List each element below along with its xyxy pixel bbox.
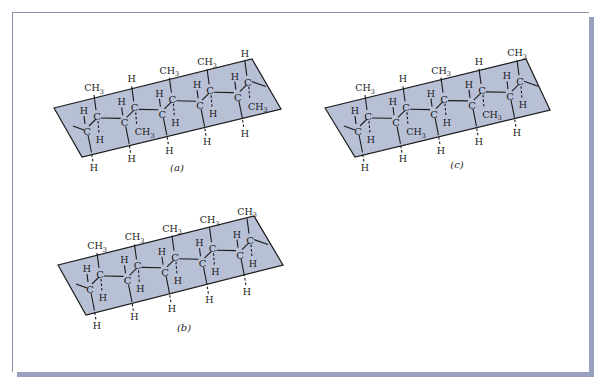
hydrogen-atom: H (465, 79, 473, 90)
carbon-atom: C (246, 235, 254, 246)
carbon-atom: C (440, 94, 448, 105)
hydrogen-atom: H (99, 292, 107, 303)
carbon-atom: C (196, 100, 204, 111)
carbon-atom: C (131, 102, 139, 113)
carbon-atom: C (430, 109, 438, 120)
carbon-atom: C (161, 267, 169, 278)
hydrogen-atom: H (120, 254, 128, 265)
panel-b-isotactic: HHCCH3HCHHCCH3HCHHCCH3HCHHCCH3HCHHCCH3HC… (58, 206, 283, 333)
hydrogen-atom: H (243, 286, 251, 297)
hydrogen-atom: H (389, 96, 397, 107)
hydrogen-atom: H (231, 71, 239, 82)
carbon-atom: C (206, 85, 214, 96)
hydrogen-atom: H (90, 162, 98, 173)
hydrogen-atom: H (443, 117, 451, 128)
hydrogen-atom: H (205, 294, 213, 305)
carbon-atom: C (354, 126, 362, 137)
panel-c-syndiotactic: HHCCH3HCHHCHCH3CHHCCH3HCHHCHCH3CHHCCH3HC… (325, 47, 550, 173)
panel-caption: (c) (450, 159, 464, 170)
hydrogen-atom: H (475, 56, 483, 67)
panel-caption: (a) (170, 162, 184, 173)
hydrogen-atom: H (475, 136, 483, 147)
hydrogen-atom: H (361, 162, 369, 173)
carbon-atom: C (364, 111, 372, 122)
hydrogen-atom: H (93, 320, 101, 331)
methyl-group: CH3 (197, 56, 217, 70)
hydrogen-atom: H (437, 145, 445, 156)
carbon-atom: C (478, 85, 486, 96)
hydrogen-atom: H (128, 73, 136, 84)
hydrogen-atom: H (136, 283, 144, 294)
hydrogen-atom: H (427, 88, 435, 99)
polymer-tacticity-diagram: HHCCH3HCHHCHCH3CHHCCH3HCHHCCH3HCHHCHCH3C… (0, 0, 604, 389)
hydrogen-atom: H (174, 275, 182, 286)
carbon-atom: C (244, 77, 252, 88)
hydrogen-atom: H (130, 311, 138, 322)
hydrogen-atom: H (399, 153, 407, 164)
hydrogen-atom: H (513, 127, 521, 138)
panel-a-isotactic-like: HHCCH3HCHHCHCH3CHHCCH3HCHHCCH3HCHHCHCH3C… (54, 48, 281, 173)
carbon-atom: C (234, 92, 242, 103)
carbon-atom: C (199, 258, 207, 269)
carbon-atom: C (468, 100, 476, 111)
hydrogen-atom: H (351, 105, 359, 116)
methyl-group: CH3 (84, 82, 104, 96)
carbon-atom: C (96, 269, 104, 280)
methyl-group: CH3 (200, 214, 220, 228)
carbon-atom: C (506, 91, 514, 102)
carbon-atom: C (516, 76, 524, 87)
carbon-atom: C (159, 109, 167, 120)
hydrogen-atom: H (249, 258, 257, 269)
methyl-group: CH3 (355, 82, 375, 96)
carbon-atom: C (402, 102, 410, 113)
hydrogen-atom: H (96, 134, 104, 145)
hydrogen-atom: H (233, 229, 241, 240)
hydrogen-atom: H (211, 266, 219, 277)
carbon-atom: C (209, 243, 217, 254)
hydrogen-atom: H (195, 237, 203, 248)
panel-caption: (b) (177, 322, 191, 333)
carbon-atom: C (121, 117, 129, 128)
hydrogen-atom: H (193, 79, 201, 90)
hydrogen-atom: H (399, 73, 407, 84)
hydrogen-atom: H (155, 88, 163, 99)
methyl-group: CH3 (237, 206, 257, 220)
methyl-group: CH3 (162, 223, 182, 237)
hydrogen-atom: H (158, 246, 166, 257)
hydrogen-atom: H (128, 153, 136, 164)
methyl-group: CH3 (160, 65, 180, 79)
hydrogen-atom: H (203, 136, 211, 147)
carbon-atom: C (93, 111, 101, 122)
hydrogen-atom: H (168, 303, 176, 314)
hydrogen-atom: H (118, 96, 126, 107)
hydrogen-atom: H (165, 145, 173, 156)
dashed-bond (244, 274, 246, 286)
hydrogen-atom: H (80, 105, 88, 116)
hydrogen-atom: H (519, 99, 527, 110)
hydrogen-atom: H (241, 128, 249, 139)
carbon-atom: C (236, 250, 244, 261)
carbon-atom: C (124, 275, 132, 286)
hydrogen-atom: H (241, 48, 249, 59)
methyl-group: CH3 (87, 240, 107, 254)
methyl-group: CH3 (431, 65, 451, 79)
hydrogen-atom: H (171, 117, 179, 128)
methyl-group: CH3 (507, 47, 527, 61)
carbon-atom: C (134, 260, 142, 271)
carbon-atom: C (169, 94, 177, 105)
hydrogen-atom: H (209, 108, 217, 119)
carbon-atom: C (392, 117, 400, 128)
carbon-atom: C (86, 284, 94, 295)
carbon-atom: C (83, 126, 91, 137)
hydrogen-atom: H (503, 70, 511, 81)
carbon-atom: C (171, 252, 179, 263)
hydrogen-atom: H (83, 263, 91, 274)
methyl-group: CH3 (125, 231, 145, 245)
hydrogen-atom: H (367, 134, 375, 145)
